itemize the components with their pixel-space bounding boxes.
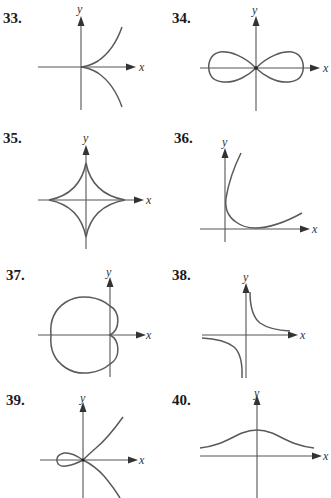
- y-axis-label: y: [79, 391, 86, 405]
- origin-point: [254, 66, 258, 70]
- x-axis-label: x: [322, 449, 329, 463]
- x-axis-label: x: [299, 328, 306, 342]
- y-axis-arrow-icon: [222, 148, 229, 158]
- x-axis-arrow-icon: [126, 64, 136, 71]
- x-axis-arrow-icon: [312, 453, 322, 460]
- x-axis-arrow-icon: [128, 457, 138, 464]
- y-axis-arrow-icon: [253, 16, 260, 26]
- figure-40: 40. x y: [172, 386, 329, 498]
- curve-branch-left: [202, 338, 242, 378]
- x-axis-label: x: [138, 60, 145, 74]
- y-axis-label: y: [82, 131, 89, 145]
- y-axis-label: y: [253, 386, 260, 400]
- x-axis-label: x: [145, 328, 152, 342]
- figure-38: 38. x y: [172, 267, 306, 378]
- x-axis-arrow-icon: [310, 65, 320, 72]
- y-axis-label: y: [76, 2, 83, 16]
- y-axis-arrow-icon: [78, 16, 85, 26]
- exercise-number: 36.: [174, 130, 193, 146]
- y-axis-arrow-icon: [243, 283, 250, 293]
- exercise-figures-page: 33. x y 34. x y 35. x y 36. x: [0, 0, 331, 498]
- figure-34: 34. x y: [172, 3, 329, 111]
- x-axis-label: x: [311, 222, 318, 236]
- curve-upper-branch: [81, 27, 122, 67]
- curve-lower-branch: [81, 67, 122, 107]
- figure-39: 39. x y: [6, 391, 145, 498]
- y-axis-label: y: [242, 270, 249, 284]
- x-axis-arrow-icon: [134, 197, 144, 204]
- curve-branch-right: [250, 292, 290, 331]
- figure-33: 33. x y: [3, 2, 145, 110]
- exercise-number: 39.: [6, 392, 25, 408]
- y-axis-label: y: [221, 135, 228, 149]
- x-axis-label: x: [145, 193, 152, 207]
- exercise-number: 37.: [6, 267, 25, 283]
- exercise-number: 33.: [3, 10, 22, 26]
- y-axis-label: y: [251, 3, 258, 17]
- nodal-cubic-curve: [57, 417, 123, 498]
- curve: [226, 153, 302, 228]
- exercise-number: 34.: [172, 10, 191, 26]
- y-axis-label: y: [105, 265, 112, 279]
- figure-35: 35. x y: [3, 130, 152, 249]
- x-axis-arrow-icon: [136, 332, 146, 339]
- figure-36: 36. x y: [174, 130, 318, 242]
- x-axis-label: x: [138, 453, 145, 467]
- figure-37: 37. x y: [6, 265, 152, 377]
- x-axis-arrow-icon: [288, 332, 298, 339]
- origin-point: [81, 458, 84, 461]
- y-axis-arrow-icon: [83, 145, 90, 155]
- x-axis-label: x: [322, 61, 329, 75]
- exercise-number: 35.: [3, 130, 22, 146]
- exercise-number: 38.: [172, 267, 191, 283]
- x-axis-arrow-icon: [300, 226, 310, 233]
- exercise-number: 40.: [172, 392, 191, 408]
